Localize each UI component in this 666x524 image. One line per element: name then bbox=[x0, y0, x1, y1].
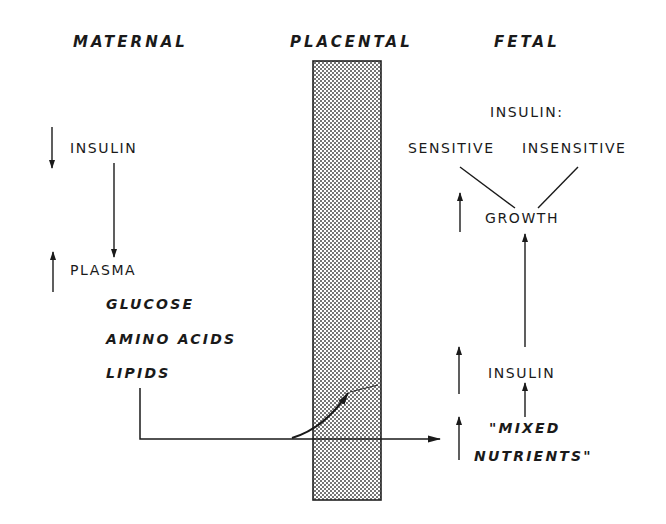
nutrient-lipids: LIPIDS bbox=[106, 366, 171, 380]
header-maternal: MATERNAL bbox=[73, 35, 188, 50]
nutrient-transfer-arrow-icon bbox=[140, 388, 440, 439]
insulin-insensitive-label: INSENSITIVE bbox=[522, 141, 627, 155]
nutrient-glucose: GLUCOSE bbox=[106, 297, 194, 311]
insulin-sensitive-label: SENSITIVE bbox=[408, 141, 495, 155]
placenta-band bbox=[313, 61, 381, 500]
insensitive-to-growth-line bbox=[538, 167, 578, 208]
fetal-insulin-label: INSULIN bbox=[488, 366, 555, 380]
fetal-growth-label: GROWTH bbox=[485, 211, 559, 225]
fetal-insulin-header: INSULIN: bbox=[490, 105, 564, 119]
header-placental: PLACENTAL bbox=[290, 35, 413, 50]
nutrient-amino-acids: AMINO ACIDS bbox=[106, 332, 236, 346]
mixed-nutrients-line2: NUTRIENTS" bbox=[474, 449, 593, 463]
mixed-nutrients-line1: "MIXED bbox=[489, 421, 561, 435]
maternal-insulin-label: INSULIN bbox=[70, 141, 137, 155]
header-fetal: FETAL bbox=[494, 35, 560, 50]
maternal-plasma-label: PLASMA bbox=[70, 263, 136, 277]
sensitive-to-growth-line bbox=[460, 167, 515, 208]
